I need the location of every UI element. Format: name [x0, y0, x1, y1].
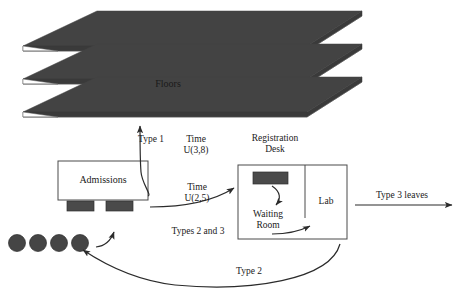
flow-types23-time-line2: U(2,5) [184, 193, 209, 203]
flow-type1-time-line1: Time [186, 134, 206, 144]
person-circle [9, 235, 26, 252]
person-circle [72, 235, 89, 252]
flow-types23-label: Types 2 and 3 [172, 226, 225, 237]
flow-type1-time-label: Time U(3,8) [183, 134, 208, 155]
registration-desk-line1: Registration [252, 133, 298, 143]
floors-stack [23, 11, 362, 117]
person-circle [51, 235, 68, 252]
flow-type1-label: Type 1 [138, 134, 164, 145]
waiting-room-line2: Room [256, 220, 279, 230]
flow-types23-time-line1: Time [187, 182, 207, 192]
registration-counter[interactable] [253, 172, 288, 184]
floors-label: Floors [155, 78, 181, 89]
diagram-canvas: Floors Admissions Type 1 Time U(3,8) Tim… [0, 0, 457, 300]
flow-type1-time-line2: U(3,8) [183, 145, 208, 155]
admissions-label: Admissions [79, 174, 126, 185]
arrow-type2-returns [83, 244, 340, 287]
admissions-station-1[interactable] [67, 201, 94, 211]
person-circle [30, 235, 47, 252]
waiting-room-label: Waiting Room [253, 209, 283, 230]
admissions-station-2[interactable] [106, 201, 133, 211]
flow-type2-label: Type 2 [236, 266, 262, 277]
diagram-graphics [0, 0, 457, 300]
admissions-stations [67, 201, 133, 211]
registration-desk-label: Registration Desk [252, 133, 298, 154]
lab-label: Lab [319, 196, 334, 207]
flow-types23-time-label: Time U(2,5) [184, 182, 209, 203]
arriving-people [9, 235, 89, 252]
arrow-people-to-admissions [96, 232, 114, 247]
flow-type3-leaves-label: Type 3 leaves [376, 190, 428, 201]
registration-desk-line2: Desk [265, 144, 285, 154]
waiting-room-line1: Waiting [253, 209, 283, 219]
